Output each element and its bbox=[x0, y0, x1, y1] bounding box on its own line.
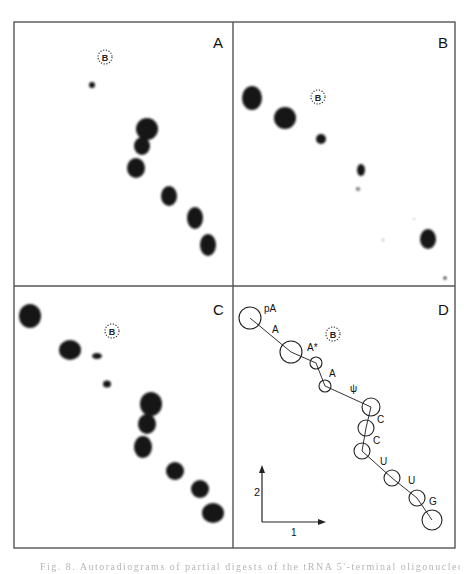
marker-label: B bbox=[330, 330, 337, 340]
radioactive-spot bbox=[187, 207, 203, 229]
radioactive-spot bbox=[357, 164, 365, 176]
radioactive-spot bbox=[19, 304, 41, 328]
nucleotide-label: pA bbox=[264, 303, 277, 314]
axis-label-2: 2 bbox=[254, 486, 260, 498]
radioactive-spot bbox=[316, 134, 326, 144]
panel-label: A bbox=[213, 34, 223, 51]
nucleotide-label: A* bbox=[307, 342, 318, 353]
nucleotide-label: ψ bbox=[350, 383, 357, 394]
radioactive-spot bbox=[202, 503, 224, 523]
radioactive-spot bbox=[140, 392, 162, 416]
marker-label: B bbox=[109, 327, 116, 337]
nucleotide-label: C bbox=[377, 414, 384, 425]
radioactive-spot bbox=[89, 82, 95, 88]
nucleotide-label: A bbox=[329, 368, 336, 379]
figure-caption-truncated: Fig. 8. Autoradiograms of partial digest… bbox=[40, 560, 460, 574]
radioactive-spot bbox=[134, 436, 152, 458]
panel-label: B bbox=[438, 34, 448, 51]
outer-border bbox=[14, 22, 455, 548]
nucleotide-label: A bbox=[272, 324, 279, 335]
panel-a: AB bbox=[89, 34, 223, 256]
marker-label: B bbox=[315, 93, 322, 103]
nucleotide-label: C bbox=[373, 435, 380, 446]
radioactive-spot bbox=[138, 414, 156, 434]
radioactive-spot bbox=[134, 137, 150, 155]
radioactive-spot bbox=[420, 229, 436, 249]
radioactive-spot bbox=[166, 462, 184, 480]
direction-axes: 12 bbox=[254, 465, 326, 538]
marker-b-dotted: B bbox=[98, 50, 112, 64]
panel-label: C bbox=[213, 301, 224, 318]
radioactive-spot bbox=[103, 381, 111, 388]
caption-text: Fig. 8. Autoradiograms of partial digest… bbox=[40, 561, 460, 572]
marker-label: B bbox=[102, 53, 109, 63]
radioactive-spot bbox=[59, 340, 81, 360]
radioactive-spot bbox=[274, 107, 296, 129]
axis-label-1: 1 bbox=[291, 527, 297, 538]
spots bbox=[242, 86, 447, 280]
marker-b-dotted: B bbox=[105, 324, 119, 338]
radioactive-spot bbox=[127, 158, 145, 178]
connecting-path bbox=[250, 318, 432, 520]
panel-c: CB bbox=[19, 301, 224, 523]
figure-frame bbox=[14, 22, 455, 548]
panel-d: DBpAAA*AψCCUUG12 bbox=[239, 301, 449, 538]
radioactive-spot bbox=[444, 277, 447, 280]
radioactive-spot bbox=[242, 86, 262, 110]
nucleotide-label: U bbox=[408, 475, 415, 486]
panel-label: D bbox=[438, 301, 449, 318]
marker-b-dotted: B bbox=[326, 327, 340, 341]
radioactive-spot bbox=[92, 353, 102, 359]
radioactive-spot bbox=[200, 234, 216, 256]
spots bbox=[89, 82, 216, 256]
radioactive-spot bbox=[356, 187, 360, 191]
spots bbox=[19, 304, 224, 523]
nucleotide-label: U bbox=[380, 456, 387, 467]
arrow-up-icon bbox=[259, 465, 265, 473]
radioactive-spot bbox=[136, 118, 158, 140]
radioactive-spot bbox=[413, 218, 415, 220]
nucleotide-label: G bbox=[429, 496, 437, 507]
arrow-right-icon bbox=[318, 519, 326, 525]
marker-b-dotted: B bbox=[311, 90, 325, 104]
radioactive-spot bbox=[161, 186, 177, 206]
radioactive-spot bbox=[191, 480, 209, 498]
radioactive-spot bbox=[382, 239, 384, 241]
panel-b: BB bbox=[242, 34, 448, 280]
